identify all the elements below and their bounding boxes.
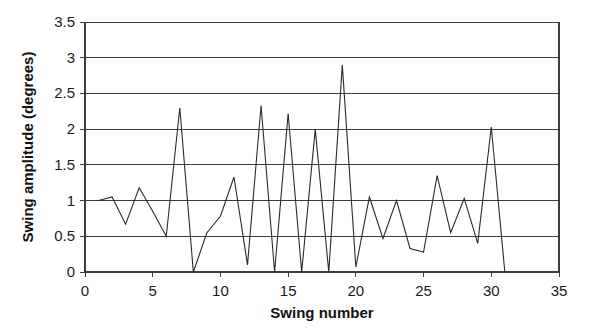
y-tick-label: 0.5	[54, 227, 75, 244]
y-axis-title: Swing amplitude (degrees)	[19, 52, 36, 243]
y-tick-label: 1.5	[54, 156, 75, 173]
data-series-line	[99, 65, 505, 272]
y-tick-labels: 00.511.522.533.5	[54, 13, 75, 280]
y-tick-label: 2.5	[54, 84, 75, 101]
x-axis-title: Swing number	[270, 304, 374, 321]
x-tick-label: 30	[483, 282, 500, 299]
y-tick-label: 1	[67, 192, 75, 209]
y-tick-label: 3	[67, 49, 75, 66]
x-tick-label: 25	[415, 282, 432, 299]
line-chart: 00.511.522.533.5 05101520253035 Swing nu…	[0, 0, 594, 335]
x-tick-label: 15	[280, 282, 297, 299]
y-axis-ticks	[80, 22, 85, 272]
x-axis-ticks	[85, 272, 559, 277]
y-tick-label: 3.5	[54, 13, 75, 30]
y-tick-label: 2	[67, 120, 75, 137]
x-tick-label: 20	[348, 282, 365, 299]
x-tick-label: 5	[149, 282, 157, 299]
gridlines	[85, 22, 559, 272]
x-tick-label: 35	[551, 282, 568, 299]
chart-figure: 00.511.522.533.5 05101520253035 Swing nu…	[0, 0, 594, 335]
x-tick-label: 10	[212, 282, 229, 299]
x-tick-labels: 05101520253035	[81, 282, 568, 299]
y-tick-label: 0	[67, 263, 75, 280]
x-tick-label: 0	[81, 282, 89, 299]
